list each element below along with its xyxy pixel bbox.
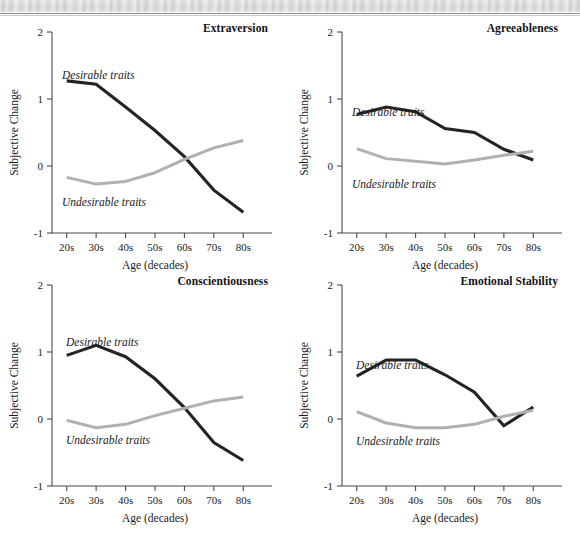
- series-line-undesirable: [67, 397, 244, 428]
- series-label-desirable: Desirable traits: [61, 69, 135, 81]
- y-tick-label: 2: [328, 26, 334, 38]
- scan-artifact-band: [0, 0, 580, 12]
- x-tick-label: 40s: [118, 494, 133, 506]
- series-line-undesirable: [67, 141, 244, 185]
- x-tick-label: 20s: [349, 494, 364, 506]
- x-tick-label: 20s: [59, 494, 74, 506]
- y-tick-label: -1: [324, 480, 333, 492]
- x-tick-label: 40s: [408, 241, 423, 253]
- y-tick-label: -1: [324, 227, 333, 239]
- x-tick-label: 70s: [496, 241, 511, 253]
- x-axis-title: Age (decades): [122, 512, 188, 525]
- header-rule: [0, 13, 580, 14]
- x-tick-label: 80s: [526, 494, 541, 506]
- x-tick-label: 60s: [467, 494, 482, 506]
- x-tick-label: 60s: [467, 241, 482, 253]
- plot-agreeableness: 210-120s30s40s50s60s70s80sDesirable trai…: [290, 16, 580, 278]
- x-tick-label: 50s: [437, 241, 452, 253]
- y-tick-label: 1: [38, 93, 44, 105]
- x-tick-label: 80s: [236, 494, 251, 506]
- y-tick-label: 2: [38, 26, 44, 38]
- x-tick-label: 50s: [437, 494, 452, 506]
- x-tick-label: 60s: [177, 494, 192, 506]
- y-tick-label: 0: [38, 160, 44, 172]
- series-label-desirable: Desirable traits: [351, 106, 425, 118]
- chart-panel-conscientiousness: Conscientiousness 210-120s30s40s50s60s70…: [0, 269, 290, 531]
- x-tick-label: 20s: [59, 241, 74, 253]
- y-tick-label: -1: [34, 480, 43, 492]
- x-tick-label: 50s: [147, 494, 162, 506]
- y-tick-label: -1: [34, 227, 43, 239]
- x-tick-label: 30s: [89, 494, 104, 506]
- y-tick-label: 0: [328, 413, 334, 425]
- y-axis-title: Subjective Change: [8, 342, 21, 429]
- chart-panel-extraversion: Extraversion 210-120s30s40s50s60s70s80sD…: [0, 16, 290, 278]
- figure-four-panel-line-charts: Extraversion 210-120s30s40s50s60s70s80sD…: [0, 16, 580, 538]
- y-tick-label: 2: [38, 279, 44, 291]
- y-tick-label: 1: [328, 93, 334, 105]
- y-tick-label: 0: [38, 413, 44, 425]
- x-tick-label: 80s: [236, 241, 251, 253]
- x-tick-label: 20s: [349, 241, 364, 253]
- chart-panel-emotional-stability: Emotional Stability 210-120s30s40s50s60s…: [290, 269, 580, 531]
- x-tick-label: 70s: [496, 494, 511, 506]
- x-tick-label: 30s: [379, 241, 394, 253]
- x-tick-label: 80s: [526, 241, 541, 253]
- series-label-undesirable: Undesirable traits: [62, 196, 147, 208]
- y-tick-label: 1: [38, 346, 44, 358]
- x-tick-label: 40s: [408, 494, 423, 506]
- x-axis-title: Age (decades): [412, 512, 478, 525]
- x-tick-label: 70s: [206, 241, 221, 253]
- x-tick-label: 40s: [118, 241, 133, 253]
- y-axis-title: Subjective Change: [8, 89, 21, 176]
- x-tick-label: 30s: [379, 494, 394, 506]
- chart-panel-agreeableness: Agreeableness 210-120s30s40s50s60s70s80s…: [290, 16, 580, 278]
- series-label-desirable: Desirable traits: [65, 336, 139, 348]
- series-label-undesirable: Undesirable traits: [356, 435, 441, 447]
- series-label-desirable: Desirable traits: [355, 359, 429, 371]
- series-label-undesirable: Undesirable traits: [66, 434, 151, 446]
- y-tick-label: 0: [328, 160, 334, 172]
- series-label-undesirable: Undesirable traits: [352, 178, 437, 190]
- x-tick-label: 70s: [206, 494, 221, 506]
- y-tick-label: 1: [328, 346, 334, 358]
- x-tick-label: 30s: [89, 241, 104, 253]
- plot-conscientiousness: 210-120s30s40s50s60s70s80sDesirable trai…: [0, 269, 290, 531]
- y-tick-label: 2: [328, 279, 334, 291]
- y-axis-title: Subjective Change: [298, 89, 311, 176]
- y-axis-title: Subjective Change: [298, 342, 311, 429]
- x-tick-label: 60s: [177, 241, 192, 253]
- plot-extraversion: 210-120s30s40s50s60s70s80sDesirable trai…: [0, 16, 290, 278]
- x-tick-label: 50s: [147, 241, 162, 253]
- plot-emotional-stability: 210-120s30s40s50s60s70s80sDesirable trai…: [290, 269, 580, 531]
